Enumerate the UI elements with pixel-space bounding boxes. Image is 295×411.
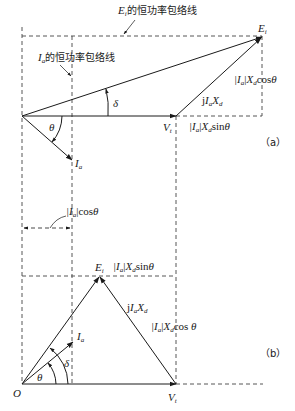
ia-envelope-leader	[60, 65, 71, 76]
x-sub: d	[144, 307, 148, 315]
fn: sin	[136, 260, 149, 272]
abs-open: |I	[66, 205, 73, 217]
x-sub: d	[219, 100, 223, 108]
sin-term-label-a: |Ia|Xdsinθ	[189, 121, 230, 134]
ia-label-a: Ia	[75, 158, 82, 171]
x-var: X	[137, 301, 144, 313]
abs-open: |I	[151, 320, 158, 332]
ei-envelope-label: Ei的恒功率包络线	[118, 5, 197, 18]
fn: sin	[212, 120, 225, 132]
ei-sub: i	[102, 267, 104, 275]
ia-cos-label: |Ia|cosθ	[66, 206, 98, 219]
vt-sub: t	[170, 127, 172, 135]
ei-var: E	[95, 261, 102, 273]
dashed-guides	[22, 27, 263, 384]
theta-label-a: θ	[49, 122, 54, 133]
ia-sub: a	[79, 163, 83, 171]
angle: θ	[93, 205, 98, 217]
panel-a-tag: （a）	[260, 138, 286, 148]
ei-phasor-b	[22, 277, 99, 384]
ia-sub: a	[81, 336, 85, 344]
vt-var: V	[168, 391, 175, 403]
angle: θ	[148, 260, 153, 272]
fn: cos	[78, 205, 93, 217]
angle: θ	[224, 120, 229, 132]
vt-var: V	[163, 121, 170, 133]
theta-arc-b	[48, 363, 56, 384]
delta-arc-a	[106, 89, 108, 116]
ei-envelope-text: 的恒功率包络线	[127, 5, 197, 16]
jiaxd-label-b: jIaXd	[127, 302, 147, 315]
sin-term-label-b: |Ia|Xdsinθ	[113, 261, 154, 274]
x-var: X	[212, 94, 219, 106]
abs-open: |I	[189, 120, 196, 132]
abs-open: |I	[234, 73, 241, 85]
cos-term-label-a: |Ia|Xdcosθ	[234, 74, 277, 87]
ei-phasor-a	[22, 37, 262, 116]
abs-open: |I	[113, 260, 120, 272]
ei-label-b: Ei	[95, 262, 104, 275]
ei-var: E	[118, 4, 125, 16]
vt-label-b: Vt	[168, 392, 177, 405]
delta-label-a: δ	[113, 98, 118, 109]
angle: θ	[191, 320, 196, 332]
angle: θ	[271, 73, 276, 85]
ia-cos-leader	[50, 216, 66, 228]
ei-sub: i	[265, 28, 267, 36]
ei-var: E	[258, 22, 265, 34]
fn: cos	[174, 320, 191, 332]
ia-envelope-text: 的恒功率包络线	[45, 52, 115, 63]
panel-b-tag: （b）	[260, 349, 286, 359]
ia-phasor-a	[22, 116, 72, 160]
theta-label-b: θ	[37, 372, 42, 383]
vt-sub: t	[175, 397, 177, 405]
ia-envelope-label: Ia的恒功率包络线	[38, 52, 115, 65]
cos-term-label-b: |Ia|Xdcos θ	[151, 321, 196, 334]
fn: cos	[257, 73, 272, 85]
delta-label-b: δ	[64, 358, 69, 369]
origin-label-b: O	[13, 388, 21, 399]
vt-label-a: Vt	[163, 122, 172, 135]
ia-label-b: Ia	[77, 331, 84, 344]
ei-envelope-leader	[124, 20, 135, 34]
jiaxd-label-a: jIaXd	[202, 95, 222, 108]
ei-label-a: Ei	[258, 23, 267, 36]
